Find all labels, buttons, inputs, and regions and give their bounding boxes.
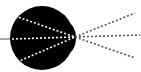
external-ray-0 bbox=[75, 13, 135, 37]
eye-diagram-graphic bbox=[0, 0, 141, 72]
external-ray-1 bbox=[75, 35, 140, 37]
external-ray-2 bbox=[75, 37, 135, 58]
external-rays-group bbox=[75, 13, 140, 58]
eye-ray-diagram bbox=[0, 0, 141, 72]
